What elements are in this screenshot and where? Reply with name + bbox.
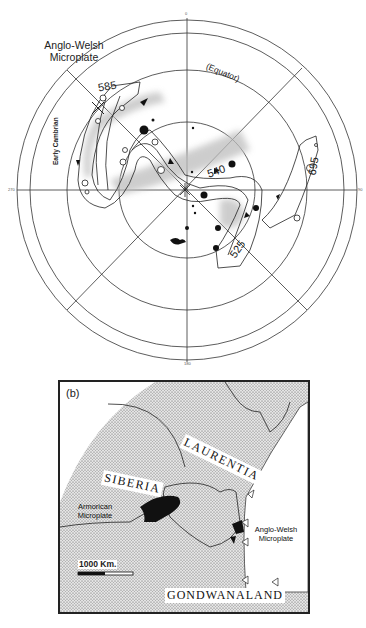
meridian-lines bbox=[17, 18, 357, 362]
landmass-marker bbox=[170, 238, 186, 245]
axis-label-bottom: 180 bbox=[184, 362, 191, 366]
scale-bar-graphic bbox=[78, 572, 133, 575]
panel-label-b: (b) bbox=[66, 387, 79, 399]
armorican-microplate-label: Armorican Microplate bbox=[70, 502, 120, 521]
armorican-line2: Microplate bbox=[78, 511, 113, 520]
map-frame: (b) LAURENTIA SIBERIA Armorican Micropla… bbox=[58, 380, 310, 614]
anglo-welsh-line1: Anglo-Welsh bbox=[255, 525, 297, 534]
anglo-welsh-microplate-label: Anglo-Welsh Microplate bbox=[34, 40, 114, 63]
armorican-line1: Armorican bbox=[78, 502, 112, 511]
palaeogeographic-map: (b) LAURENTIA SIBERIA Armorican Micropla… bbox=[58, 380, 310, 614]
anglo-welsh-line2: Microplate bbox=[259, 534, 294, 543]
early-cambrian-label: Early Cambrian bbox=[52, 117, 59, 165]
confidence-swaths bbox=[84, 92, 250, 228]
map-svg bbox=[60, 382, 308, 612]
axis-label-top: 0 bbox=[185, 12, 187, 16]
axis-label-left: 270 bbox=[8, 188, 15, 192]
apparent-polar-wander-plot: Anglo-Welsh Microplate (Equator) Early C… bbox=[0, 0, 366, 370]
anglo-welsh-microplate-label-b: Anglo-Welsh Microplate bbox=[246, 525, 306, 544]
scale-bar-label: 1000 Km. bbox=[78, 560, 117, 569]
axis-label-right: 90 bbox=[358, 188, 362, 192]
gondwanaland-label: GONDWANALAND bbox=[165, 588, 285, 603]
